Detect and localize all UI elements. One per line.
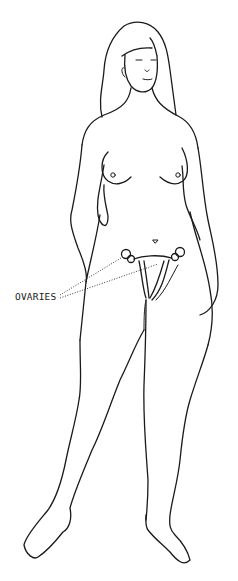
hair-outline xyxy=(100,22,176,117)
ovaries-label: OVARIES xyxy=(15,291,56,302)
right-arm xyxy=(198,148,218,315)
left-arm xyxy=(71,145,87,282)
left-breast xyxy=(102,152,131,184)
left-leg xyxy=(24,330,144,558)
right-leg xyxy=(146,345,208,563)
leader-line-right-ovary xyxy=(60,264,158,298)
ovaries-uterus xyxy=(122,248,185,301)
anatomy-figure: OVARIES xyxy=(0,0,238,581)
face-outline xyxy=(125,38,158,92)
navel xyxy=(153,240,158,243)
